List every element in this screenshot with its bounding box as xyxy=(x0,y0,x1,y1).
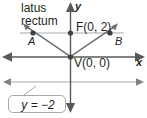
directrix-line xyxy=(3,78,144,85)
directrix-equation-label: y = −2 xyxy=(9,96,67,114)
latus-rectum-label-line2: rectum xyxy=(21,14,58,28)
vertex-dot xyxy=(68,54,73,59)
focus-label: F(0, 2) xyxy=(76,21,111,34)
directrix-callout-box: y = −2 xyxy=(8,95,66,113)
latus-rectum-label-line1: latus xyxy=(21,1,46,15)
latus-rectum-label: latusrectum xyxy=(21,2,58,28)
y-axis-label: y xyxy=(75,1,81,13)
x-axis-label: x xyxy=(136,57,142,69)
point-a-label: A xyxy=(28,36,35,48)
point-b-label: B xyxy=(115,36,122,48)
focus-dot xyxy=(68,30,73,35)
parabola-figure: latusrectum A B F(0, 2) V(0, 0) x y y = … xyxy=(0,0,147,118)
callout-leader-line xyxy=(24,86,36,95)
vertex-label: V(0, 0) xyxy=(74,57,110,70)
